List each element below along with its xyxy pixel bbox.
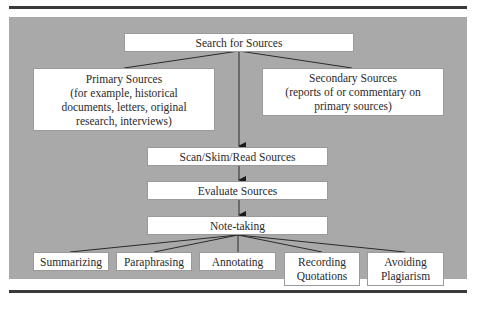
- secondary-sources-title: Secondary Sources: [309, 71, 397, 85]
- avoiding-plagiarism-box: Avoiding Plagiarism: [367, 252, 444, 286]
- annotating-box: Annotating: [199, 252, 276, 271]
- secondary-sources-detail: (reports of or commentary on primary sou…: [263, 85, 443, 113]
- recording-quotations-label: Recording Quotations: [293, 255, 351, 283]
- connector-avoiding: [238, 235, 405, 252]
- paraphrasing-label: Paraphrasing: [124, 255, 184, 269]
- recording-quotations-box: Recording Quotations: [284, 252, 360, 286]
- summarizing-label: Summarizing: [40, 255, 102, 269]
- annotating-label: Annotating: [212, 255, 264, 269]
- primary-sources-box: Primary Sources (for example, historical…: [33, 68, 215, 131]
- scan-skim-read-label: Scan/Skim/Read Sources: [180, 150, 296, 164]
- connector-root-primary: [124, 51, 239, 68]
- search-for-sources-label: Search for Sources: [196, 36, 283, 50]
- evaluate-sources-box: Evaluate Sources: [147, 181, 328, 200]
- evaluate-sources-label: Evaluate Sources: [198, 184, 278, 198]
- scan-skim-read-box: Scan/Skim/Read Sources: [147, 147, 328, 166]
- bottom-rule: [9, 290, 467, 293]
- search-for-sources-box: Search for Sources: [124, 33, 354, 52]
- note-taking-box: Note-taking: [147, 216, 328, 235]
- paraphrasing-box: Paraphrasing: [116, 252, 192, 271]
- primary-sources-detail: (for example, historical documents, lett…: [34, 86, 214, 128]
- connector-paraphrasing: [154, 235, 238, 252]
- summarizing-box: Summarizing: [33, 252, 109, 271]
- connector-root-secondary: [239, 51, 352, 68]
- connector-summarizing: [70, 235, 238, 252]
- note-taking-label: Note-taking: [210, 219, 265, 233]
- secondary-sources-box: Secondary Sources (reports of or comment…: [262, 68, 444, 116]
- connector-recording: [238, 235, 322, 252]
- avoiding-plagiarism-label: Avoiding Plagiarism: [378, 255, 433, 283]
- primary-sources-title: Primary Sources: [86, 72, 162, 86]
